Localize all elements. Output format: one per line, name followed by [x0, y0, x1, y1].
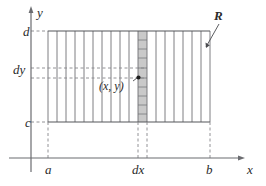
figure-canvas: y x d dy c a dx b R (x, y)	[0, 0, 266, 186]
region-label: R	[214, 9, 223, 22]
x-level-guides	[48, 122, 210, 158]
dy-label: dy	[13, 63, 25, 76]
x-upper-label: b	[206, 163, 213, 176]
x-axis-label: x	[247, 163, 253, 176]
dx-label: dx	[132, 163, 144, 176]
figure-svg	[0, 0, 266, 186]
y-lower-label: c	[25, 116, 31, 129]
y-upper-label: d	[23, 25, 30, 38]
sample-point-label: (x, y)	[99, 80, 124, 92]
x-lower-label: a	[45, 163, 52, 176]
y-axis-label: y	[37, 6, 43, 19]
region-label-leader	[206, 24, 220, 48]
sample-point-leader	[133, 78, 137, 81]
sample-point-marker	[136, 75, 140, 79]
vertical-strips	[48, 31, 210, 122]
y-level-guides	[31, 31, 48, 122]
